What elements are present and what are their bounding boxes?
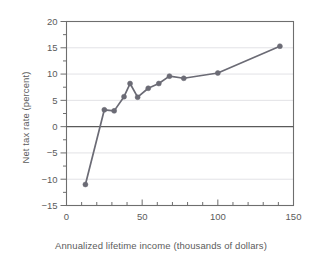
x-tick-label-100: 100 <box>210 211 226 222</box>
y-tick-label--10: −10 <box>41 174 57 185</box>
data-point-3 <box>122 94 127 99</box>
chart-figure: 050100150 −15−10−505101520 Annualized li… <box>0 0 322 258</box>
y-tick-label-15: 15 <box>47 42 58 53</box>
y-tick-label-20: 20 <box>47 16 58 27</box>
data-point-6 <box>146 86 151 91</box>
data-point-9 <box>181 76 186 81</box>
net-tax-rate-line-chart: 050100150 −15−10−505101520 <box>0 0 322 258</box>
y-tick-label--5: −5 <box>47 147 58 158</box>
y-tick-label-5: 5 <box>52 95 57 106</box>
chart-background <box>0 0 322 258</box>
y-tick-label--15: −15 <box>41 200 57 211</box>
data-point-0 <box>83 182 88 187</box>
data-point-4 <box>128 81 133 86</box>
data-point-7 <box>156 81 161 86</box>
data-point-2 <box>112 108 117 113</box>
y-tick-label-10: 10 <box>47 68 58 79</box>
data-point-11 <box>277 44 282 49</box>
x-tick-label-150: 150 <box>286 211 302 222</box>
y-axis-title: Net tax rate (percent) <box>20 38 31 198</box>
data-point-5 <box>135 95 140 100</box>
data-point-10 <box>215 71 220 76</box>
data-point-8 <box>167 74 172 79</box>
x-tick-label-50: 50 <box>137 211 148 222</box>
data-point-1 <box>102 107 107 112</box>
y-tick-label-0: 0 <box>52 121 57 132</box>
x-tick-label-0: 0 <box>64 211 69 222</box>
x-axis-title: Annualized lifetime income (thousands of… <box>0 240 322 251</box>
